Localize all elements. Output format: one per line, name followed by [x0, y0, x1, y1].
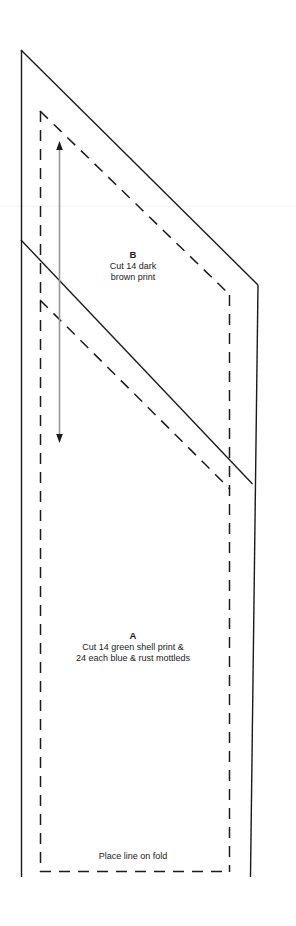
dashed-outline-group [40, 111, 230, 872]
pattern-drawing [0, 0, 296, 926]
solid-outline-group [21, 50, 258, 877]
dashed-divider-diagonal [40, 300, 230, 489]
solid-top-diagonal-edge [21, 50, 258, 285]
grainline-arrow [56, 141, 63, 443]
dashed-top-diagonal-edge [40, 111, 230, 295]
pattern-sheet: B Cut 14 dark brown print A Cut 14 green… [0, 0, 296, 926]
solid-right-edge [251, 285, 259, 877]
solid-divider-diagonal [21, 240, 253, 484]
grainline-arrowhead-down [56, 434, 63, 443]
grainline-arrowhead-up [56, 141, 63, 150]
